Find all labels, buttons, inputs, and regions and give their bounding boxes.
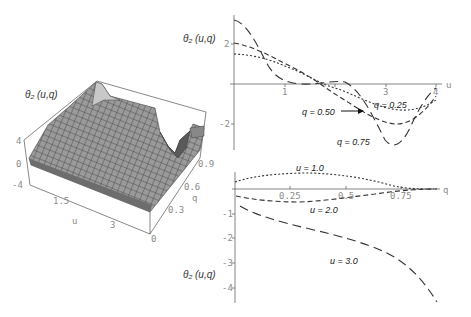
y-tick: -2 [219,119,230,129]
x-tick: 0.75 [390,191,412,201]
y-tick: -4 [222,283,233,293]
surface-mesh [29,82,204,212]
z-tick: 4 [16,136,21,146]
annotation-u-2.0: u = 2.0 [310,205,338,215]
z-tick: -4 [12,180,23,190]
u-axis-label: u [72,216,77,226]
x-axis-label: u [446,80,451,90]
y-tick: -3 [222,258,233,268]
u-tick: 3 [110,220,115,230]
x-axis-label: q [443,185,448,195]
u-tick: 1.5 [53,196,69,206]
y-tick: -1 [222,209,233,219]
annotation-q-0.25: q = 0.25 [374,100,408,110]
y-axis-label: θ₂ (u,q) [183,33,216,44]
y-axis-label: θ₂ (u,q) [183,269,216,280]
x-tick: 3 [383,87,388,97]
x-tick: 0.25 [279,191,301,201]
annotation-q-0.75: q = 0.75 [337,137,371,147]
x-tick: 1 [282,87,287,97]
annotation-u-3.0: u = 3.0 [330,256,358,266]
z-tick: 0 [16,159,21,169]
top-line-chart: θ₂ (u,q) 2 -2 1 3 4 u q = 0.50 q = 0.25 … [180,0,471,160]
series-u-3.0 [240,206,437,302]
series-u-1.0 [235,173,437,189]
bottom-line-chart: -1 -2 -3 -4 0.25 0.5 0.75 q θ₂ (u,q) u =… [180,160,471,317]
x-tick: 0.5 [338,191,354,201]
y-tick: -2 [222,233,233,243]
series-q-0.50 [234,43,436,124]
annotation-q-0.50: q = 0.50 [302,107,335,117]
y-tick: 2 [224,39,229,49]
z-axis-label: θ₂ (u,q) [25,89,58,100]
annotation-u-1.0: u = 1.0 [296,163,324,173]
q-tick: 0 [151,234,156,244]
series-q-0.75 [234,20,436,145]
arrow-icon [341,108,364,114]
